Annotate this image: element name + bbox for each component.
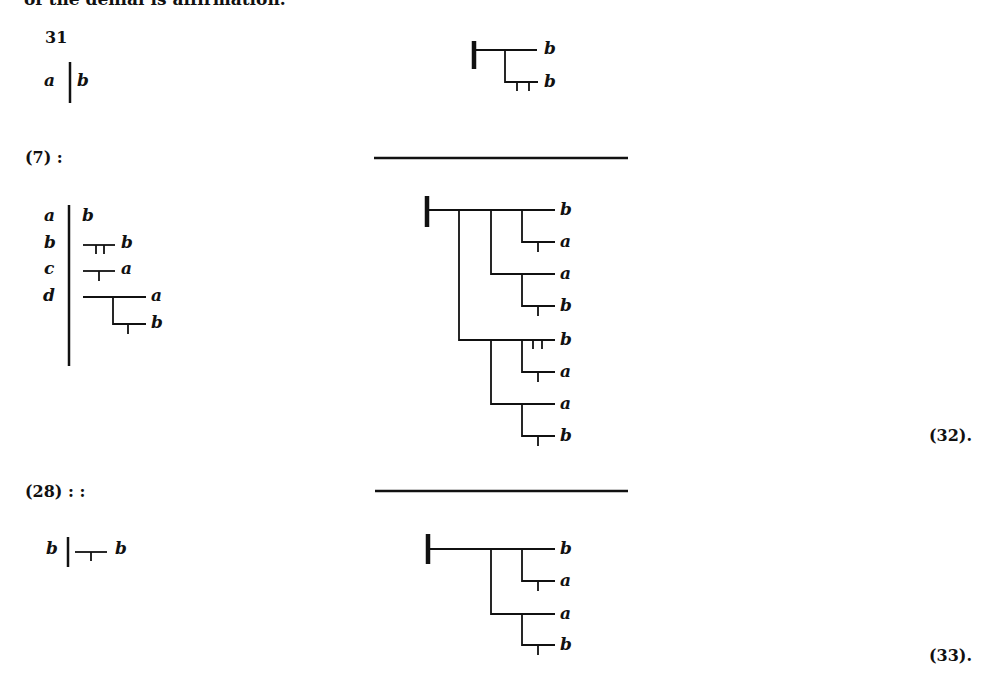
- subst-var-d: d: [43, 285, 55, 305]
- subst-value-d-top: a: [151, 285, 162, 305]
- formula33-label-2: a: [560, 570, 571, 590]
- reference-28: (28) : :: [25, 482, 85, 501]
- subst-var-a: a: [44, 70, 55, 90]
- cut-off-heading: of the denial is affirmation.: [24, 0, 286, 9]
- formula32-label-6: a: [560, 361, 571, 381]
- formula33-label-4: b: [560, 634, 572, 654]
- proposition-number-31: 31: [45, 28, 67, 47]
- equation-number-32: (32).: [929, 426, 972, 445]
- reference-7: (7) :: [25, 148, 63, 167]
- formula32-label-2: a: [560, 231, 571, 251]
- formula32-label-8: b: [560, 425, 572, 445]
- subst-var-a: a: [44, 205, 55, 225]
- begriffsschrift-diagrams: [0, 0, 1001, 694]
- formula32-label-1: b: [560, 199, 572, 219]
- equation-number-33: (33).: [929, 646, 972, 665]
- formula32-label-5: b: [560, 329, 572, 349]
- subst-value-c: a: [121, 258, 132, 278]
- formula33-label-1: b: [560, 538, 572, 558]
- subst-value-b: b: [115, 538, 127, 558]
- formula32-label-4: b: [560, 295, 572, 315]
- formula33-label-3: a: [560, 603, 571, 623]
- formula32-label-7: a: [560, 393, 571, 413]
- subst-value-b: b: [121, 232, 133, 252]
- formula31-label-2: b: [544, 71, 556, 91]
- formula32-label-3: a: [560, 263, 571, 283]
- subst-value-b: b: [77, 70, 89, 90]
- subst-var-b: b: [44, 232, 56, 252]
- subst-var-b: b: [46, 538, 58, 558]
- subst-value-d-bottom: b: [151, 312, 163, 332]
- subst-var-c: c: [44, 258, 54, 278]
- subst-value-a: b: [82, 205, 94, 225]
- formula31-label-1: b: [544, 38, 556, 58]
